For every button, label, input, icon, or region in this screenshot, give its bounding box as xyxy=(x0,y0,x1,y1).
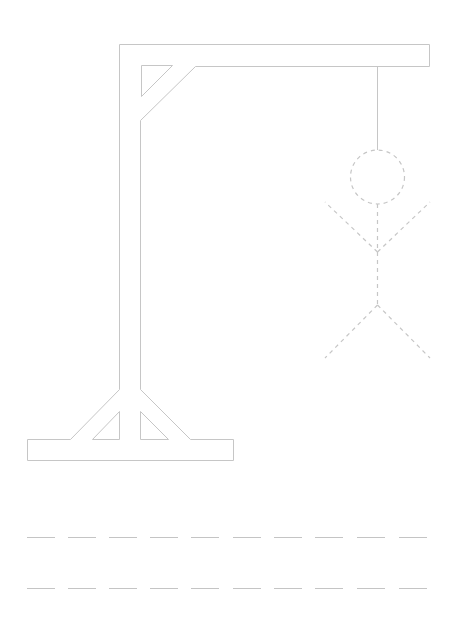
letter-blank xyxy=(27,537,55,538)
letter-blank xyxy=(150,537,178,538)
base-right-triangle xyxy=(141,412,169,440)
letter-blank xyxy=(109,537,137,538)
letter-blank xyxy=(357,537,385,538)
letter-blank xyxy=(315,588,343,589)
top-brace-triangle xyxy=(142,66,173,97)
letter-blank xyxy=(357,588,385,589)
letter-blank xyxy=(233,537,261,538)
letter-blank xyxy=(191,588,219,589)
figure-right-arm xyxy=(378,202,431,252)
letter-blank xyxy=(27,588,55,589)
letter-blank xyxy=(68,588,96,589)
letter-blank xyxy=(399,537,427,538)
letter-blank xyxy=(315,537,343,538)
letter-blank xyxy=(274,537,302,538)
letter-blank xyxy=(150,588,178,589)
figure-left-arm xyxy=(325,202,378,252)
gallows-outline xyxy=(28,45,430,461)
base-left-triangle xyxy=(93,412,120,440)
letter-blank xyxy=(109,588,137,589)
letter-blank xyxy=(399,588,427,589)
letter-blank xyxy=(274,588,302,589)
letter-blank xyxy=(233,588,261,589)
letter-blank xyxy=(68,537,96,538)
hanged-figure xyxy=(325,150,430,358)
gallows xyxy=(28,45,430,461)
figure-head xyxy=(351,150,405,204)
figure-left-leg xyxy=(325,305,378,358)
figure-right-leg xyxy=(378,305,431,358)
hangman-canvas xyxy=(0,0,456,629)
letter-blank xyxy=(191,537,219,538)
